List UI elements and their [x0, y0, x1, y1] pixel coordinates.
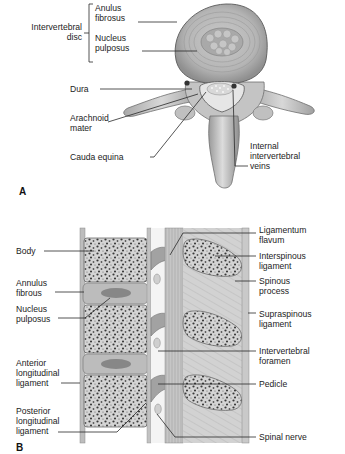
label-body: Body — [16, 246, 36, 256]
spine-sagittal — [80, 228, 249, 443]
label-text: pulposus — [16, 314, 50, 324]
label-text: Supraspinous — [259, 309, 312, 319]
label-text: longitudinal — [16, 368, 59, 378]
label-nucleus-pulposus-a: Nucleus pulposus — [95, 33, 129, 53]
label-text: Spinous — [259, 276, 290, 286]
label-anulus-fibrosus: Anulus fibrosus — [95, 3, 125, 23]
label-text: veins — [250, 161, 300, 171]
anatomy-figure: Intervertebral disc Anulus fibrosus Nucl… — [0, 0, 345, 454]
label-text: ligament — [259, 261, 306, 271]
label-anterior-longitudinal-ligament: Anterior longitudinal ligament — [16, 358, 59, 388]
label-nucleus-pulposus-b: Nucleus pulposus — [16, 304, 50, 324]
label-posterior-longitudinal-ligament: Posterior longitudinal ligament — [16, 406, 59, 436]
panel-letter-a: A — [19, 186, 26, 197]
label-text: Nucleus — [95, 33, 129, 43]
label-text: pulposus — [95, 43, 129, 53]
label-arachnoid-mater: Arachnoid mater — [70, 113, 109, 133]
label-text: Anterior — [16, 358, 59, 368]
label-annulus-fibrous: Annulus fibrous — [16, 278, 47, 298]
label-text: fibrosus — [95, 13, 125, 23]
label-spinal-nerve: Spinal nerve — [259, 432, 307, 442]
label-text: Ligamentum — [259, 225, 306, 235]
label-text: flavum — [259, 235, 306, 245]
label-cauda-equina: Cauda equina — [70, 152, 124, 162]
label-ligamentum-flavum: Ligamentum flavum — [259, 225, 306, 245]
label-text: longitudinal — [16, 416, 59, 426]
label-text: Internal — [250, 141, 300, 151]
label-interspinous-ligament: Interspinous ligament — [259, 251, 306, 271]
nucleus-pulposus-a — [201, 28, 243, 56]
label-dura: Dura — [70, 84, 89, 94]
label-spinous-process: Spinous process — [259, 276, 290, 296]
label-text: intervertebral — [250, 151, 300, 161]
label-text: Nucleus — [16, 304, 50, 314]
label-text: disc — [2, 32, 82, 42]
label-text: Arachnoid — [70, 113, 109, 123]
label-pedicle: Pedicle — [259, 379, 287, 389]
label-text: foramen — [259, 356, 310, 366]
label-intervertebral-disc: Intervertebral disc — [2, 22, 82, 42]
label-text: ligament — [259, 319, 312, 329]
label-text: Annulus — [16, 278, 47, 288]
label-text: Interspinous — [259, 251, 306, 261]
label-text: ligament — [16, 426, 59, 436]
label-text: Intervertebral — [259, 346, 310, 356]
label-text: ligament — [16, 378, 59, 388]
label-supraspinous-ligament: Supraspinous ligament — [259, 309, 312, 329]
label-text: fibrous — [16, 288, 47, 298]
label-text: Posterior — [16, 406, 59, 416]
label-text: Anulus — [95, 3, 125, 13]
panel-letter-b: B — [16, 442, 23, 453]
label-internal-intervertebral-veins: Internal intervertebral veins — [250, 141, 300, 171]
label-intervertebral-foramen: Intervertebral foramen — [259, 346, 310, 366]
label-text: process — [259, 286, 290, 296]
label-text: Intervertebral — [2, 22, 82, 32]
label-text: mater — [70, 123, 109, 133]
